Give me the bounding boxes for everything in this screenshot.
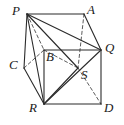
edge-pr (27, 14, 44, 104)
edge-rs (44, 68, 78, 104)
vertex-label-a: A (87, 3, 95, 16)
vertex-label-p: P (12, 4, 20, 17)
edge-qa (84, 14, 101, 50)
edge-pc (24, 14, 27, 68)
edge-pq (27, 14, 101, 50)
vertex-label-d: D (104, 101, 113, 114)
vertex-label-c: C (9, 58, 18, 71)
vertex-label-s: S (81, 68, 88, 81)
vertex-label-b: B (46, 50, 54, 63)
vertex-label-q: Q (105, 41, 114, 54)
dashed-edge-pb (27, 14, 44, 50)
vertex-label-r: R (29, 101, 37, 114)
geometry-figure: PAQBCSRD (0, 0, 124, 125)
